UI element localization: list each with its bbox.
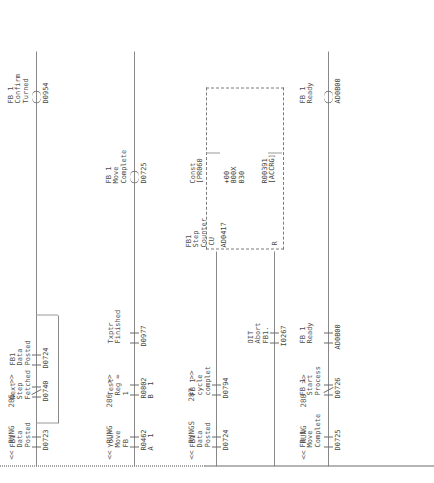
rung-286-coil-d0725[interactable] [130, 170, 139, 183]
rung-286-addr-1: R0462 A 1 [141, 429, 156, 450]
rung-288-contact-ad0b00[interactable] [324, 332, 333, 343]
rung-285-addr-3: D0724 [43, 347, 50, 368]
left-power-rail [205, 465, 434, 466]
rung-285-contact-d0724[interactable] [32, 354, 41, 365]
ladder-canvas: << RUNG 285 >> FB1 Data Posted D0723 Nex… [0, 0, 434, 483]
rung-286-addr-2: R0802 B 1 [141, 377, 156, 398]
rung-287-counter-accum: R00391 [ACCRG] [262, 153, 277, 183]
rung-288-coil-ad0b00[interactable] [324, 90, 333, 103]
rung-288-addr-3: AD0B00 [335, 324, 342, 349]
rung-286-addr-3: D0977 [141, 325, 148, 346]
rung-288-desc-3: FB 1 Ready [300, 322, 315, 343]
rung-286-marker-left: << [106, 450, 114, 459]
rung-287-reset-line [274, 251, 275, 466]
rung-287-contact-d0794[interactable] [212, 384, 221, 395]
rung-287-counter-desc: FB1 Step Counter [186, 217, 208, 247]
left-power-rail-dotted [0, 465, 205, 466]
rung-285-branch-left [36, 422, 58, 423]
rung-286-contact-r0462[interactable] [130, 436, 139, 447]
rung-286-desc-4: FB 1 Move Complete [106, 149, 128, 183]
rung-285-desc-4: FB 1 Confirm Turned [8, 73, 30, 103]
rung-288-desc-2: FB 1 Start Process [300, 365, 322, 395]
rung-285-desc-2: Next Step Fetched [10, 369, 32, 399]
rung-285-addr-1: D0723 [43, 429, 50, 450]
rung-286-contact-r0802[interactable] [130, 384, 139, 395]
rung-288-marker-left: << [300, 450, 308, 459]
ladder-diagram-page: << RUNG 285 >> FB1 Data Posted D0723 Nex… [0, 0, 434, 483]
rung-287-addr-2: D0794 [223, 377, 230, 398]
rung-287-line [216, 251, 217, 466]
rung-288-addr-1: D0725 [335, 429, 342, 450]
rung-287-desc-2: FB 1 cycle complet [190, 365, 212, 395]
rung-285-line [36, 51, 37, 466]
rung-288-desc-4: FB 1 Ready [300, 82, 315, 103]
rung-285-desc-3: FB1 Data Posted [10, 340, 32, 365]
rung-286-line [134, 51, 135, 466]
rung-285-desc-1: FB1 Data Posted [10, 422, 32, 447]
rung-288-line [328, 51, 329, 466]
rung-287-marker-left: << [188, 450, 196, 459]
rung-286-addr-4: D0725 [141, 162, 148, 183]
rung-285-branch-line [58, 315, 59, 423]
rung-285-addr-2: D0740 [43, 380, 50, 401]
rung-288-addr-4: AD0B00 [335, 78, 342, 103]
rung-286-desc-3: Txptr Finished [108, 309, 123, 343]
rung-287-counter-r-label: R [272, 241, 279, 245]
rung-285-branch-right [36, 314, 58, 315]
rung-286-desc-2: Test Reg = 1 [108, 374, 130, 395]
rung-287-contact-i0267[interactable] [270, 332, 279, 343]
rung-288-addr-2: D0726 [335, 377, 342, 398]
rung-285-contact-d0740[interactable] [32, 386, 41, 397]
rung-288-contact-d0726[interactable] [324, 384, 333, 395]
rung-287-addr-3: I0267 [281, 325, 288, 346]
rung-287-counter-preset-desc: Const [PR060 [190, 158, 205, 183]
rung-285-marker-left: << [8, 450, 16, 459]
rung-287-counter-preset-tick [206, 152, 220, 153]
rung-287-counter-cu-label: CU [209, 237, 216, 245]
rung-288-desc-1: FB 1 Move Complete [300, 413, 322, 447]
rung-287-desc-1: FB1 Data Posted [190, 422, 212, 447]
rung-288-contact-d0725[interactable] [324, 436, 333, 447]
rung-285-coil-d0954[interactable] [32, 90, 41, 103]
rung-287-addr-1: D0724 [223, 429, 230, 450]
rung-287-contact-d0724[interactable] [212, 436, 221, 447]
rung-285-contact-d0723[interactable] [32, 436, 41, 447]
rung-287-counter-accum-tick [268, 152, 282, 153]
rung-287-counter-preset-value: +00 800X 030 [224, 166, 246, 183]
rung-286-desc-1: Your Move FB [108, 430, 130, 447]
rung-287-desc-3: OIT Abort FB1. [248, 322, 270, 343]
rung-286-contact-d0977[interactable] [130, 332, 139, 343]
rung-285-addr-4: D0954 [43, 82, 50, 103]
